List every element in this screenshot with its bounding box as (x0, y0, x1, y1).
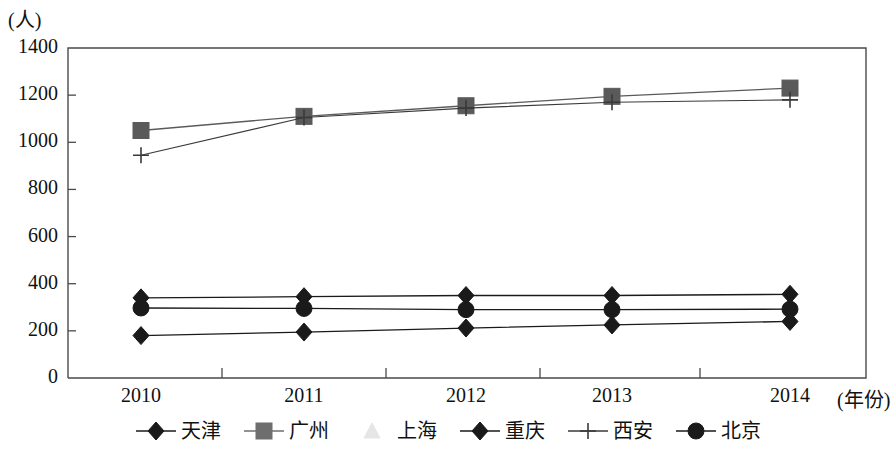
data-point-triangle (364, 423, 380, 438)
data-point-circle (296, 300, 312, 316)
legend-label: 广州 (289, 421, 329, 441)
legend-item-天津[interactable]: 天津 (135, 421, 221, 441)
data-point-diamond (296, 323, 312, 341)
legend-label: 天津 (181, 421, 221, 441)
plot-area (0, 0, 896, 450)
legend-item-西安[interactable]: 西安 (567, 421, 653, 441)
series-西安 (133, 92, 798, 163)
data-point-diamond (782, 285, 798, 303)
data-point-circle (133, 300, 149, 316)
legend-label: 西安 (613, 421, 653, 441)
legend-marker-diamond-icon (135, 421, 177, 441)
data-point-circle (604, 302, 620, 318)
data-point-square (256, 423, 272, 439)
legend-item-广州[interactable]: 广州 (243, 421, 329, 441)
data-point-diamond (148, 422, 164, 440)
chart-legend: 天津广州上海重庆西安北京 (0, 412, 896, 450)
data-point-circle (782, 301, 798, 317)
legend-marker-triangle-icon (351, 421, 393, 441)
data-point-plus (133, 147, 149, 163)
data-point-diamond (604, 316, 620, 334)
data-point-plus (580, 423, 596, 439)
data-point-square (133, 123, 149, 139)
legend-item-上海[interactable]: 上海 (351, 421, 437, 441)
legend-label: 北京 (721, 421, 761, 441)
data-point-circle (458, 302, 474, 318)
legend-label: 重庆 (505, 421, 545, 441)
legend-marker-circle-icon (675, 421, 717, 441)
data-point-diamond (133, 327, 149, 345)
series-北京 (133, 300, 798, 318)
legend-marker-plus-icon (567, 421, 609, 441)
legend-marker-square-icon (243, 421, 285, 441)
data-point-circle (688, 423, 704, 439)
chart-figure: (人) 0200400600800100012001400 2010201120… (0, 0, 896, 450)
legend-item-北京[interactable]: 北京 (675, 421, 761, 441)
legend-label: 上海 (397, 421, 437, 441)
legend-item-重庆[interactable]: 重庆 (459, 421, 545, 441)
data-point-diamond (458, 319, 474, 337)
legend-marker-diamond-icon (459, 421, 501, 441)
data-point-diamond (472, 422, 488, 440)
